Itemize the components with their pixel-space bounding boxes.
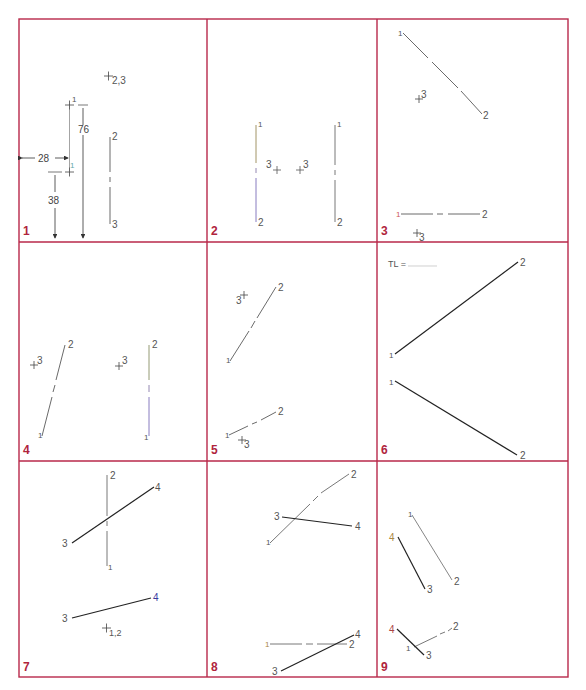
- label: 2: [152, 339, 158, 350]
- label: 2: [68, 339, 74, 350]
- label: 3: [122, 355, 128, 366]
- label: 1: [266, 538, 271, 547]
- label: 3: [62, 613, 68, 624]
- label: 1: [38, 431, 43, 440]
- worksheet: 1 2 3 4 5 6 7 8 9 2,3 1 1 2 3 28 76 38: [0, 0, 586, 690]
- cell-number-9: 9: [381, 660, 388, 674]
- label: 2: [520, 257, 526, 268]
- label: 1: [389, 351, 394, 360]
- label-point-1: 1: [72, 95, 77, 104]
- cell-1-drawing: [22, 72, 113, 239]
- label: 3: [421, 89, 427, 100]
- label: 2: [482, 209, 488, 220]
- label: 3: [62, 538, 68, 549]
- dim-28: 28: [38, 153, 50, 164]
- label: 4: [153, 592, 159, 603]
- cell-number-5: 5: [211, 443, 218, 457]
- label: 3: [266, 159, 272, 170]
- label: 2: [520, 450, 526, 461]
- label: 2: [110, 470, 116, 481]
- label-point-1-low: 1: [70, 161, 75, 170]
- label: 4: [389, 624, 395, 635]
- label: 2: [483, 110, 489, 121]
- label: 3: [419, 232, 425, 243]
- cell-number-8: 8: [211, 660, 218, 674]
- cell-7-drawing: [72, 475, 154, 633]
- cell-4-drawing: [30, 345, 149, 436]
- label: 4: [355, 521, 361, 532]
- label-line-top: 2: [112, 131, 118, 142]
- cell-number-4: 4: [23, 443, 30, 457]
- label: 2: [278, 282, 284, 293]
- label: 4: [389, 532, 395, 543]
- label: 1: [225, 431, 230, 440]
- label: 2: [278, 406, 284, 417]
- label: 3: [303, 159, 309, 170]
- cell-8-drawing: [270, 474, 354, 671]
- dim-76: 76: [78, 124, 90, 135]
- label: 3: [37, 355, 43, 366]
- label-line-bottom: 3: [112, 219, 118, 230]
- cell-2-drawing: [256, 125, 335, 222]
- cell-5-drawing: [229, 287, 276, 444]
- label: 1: [226, 356, 231, 365]
- label: 1: [408, 510, 413, 519]
- label: 1: [258, 120, 263, 129]
- label: 1: [396, 210, 401, 219]
- label: 2: [349, 639, 355, 650]
- label: 1: [337, 120, 342, 129]
- label: 1: [108, 563, 113, 572]
- cell-number-1: 1: [23, 224, 30, 238]
- dim-38: 38: [48, 195, 60, 206]
- cell-3-drawing: [401, 33, 482, 237]
- label: 3: [274, 511, 280, 522]
- label: 3: [426, 650, 432, 661]
- cell-9-drawing: [397, 515, 452, 655]
- true-length-label: TL =: [388, 259, 406, 269]
- cell-number-2: 2: [211, 224, 218, 238]
- label: 3: [244, 439, 250, 450]
- cell-number-3: 3: [381, 224, 388, 238]
- label: 4: [355, 629, 361, 640]
- label: 3: [236, 295, 242, 306]
- label-point-23: 2,3: [112, 75, 126, 86]
- label: 3: [427, 584, 433, 595]
- cell-number-7: 7: [23, 660, 30, 674]
- label: 2: [258, 217, 264, 228]
- label: 1: [398, 29, 403, 38]
- label: 2: [454, 576, 460, 587]
- label: 2: [337, 217, 343, 228]
- label: 2: [351, 469, 357, 480]
- label: 4: [155, 482, 161, 493]
- point-cross-icon: [273, 166, 281, 174]
- label: 1: [389, 378, 394, 387]
- label: 1,2: [109, 628, 122, 638]
- label: 3: [272, 666, 278, 677]
- label: 1: [144, 433, 149, 442]
- label: 1: [406, 644, 411, 653]
- label: 1: [265, 640, 270, 649]
- cell-number-6: 6: [381, 443, 388, 457]
- cell-6-drawing: [395, 262, 518, 455]
- label: 2: [453, 621, 459, 632]
